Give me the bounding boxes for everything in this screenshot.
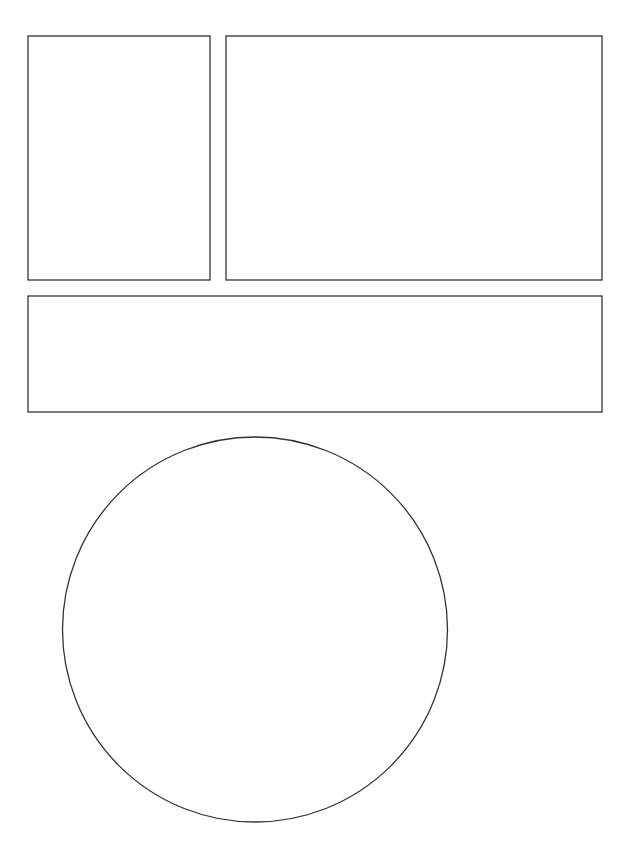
top-left-rectangle (28, 36, 210, 280)
large-circle (63, 437, 448, 822)
top-right-rectangle (226, 36, 602, 280)
diagram-canvas (0, 0, 633, 845)
wide-rectangle (28, 296, 602, 412)
